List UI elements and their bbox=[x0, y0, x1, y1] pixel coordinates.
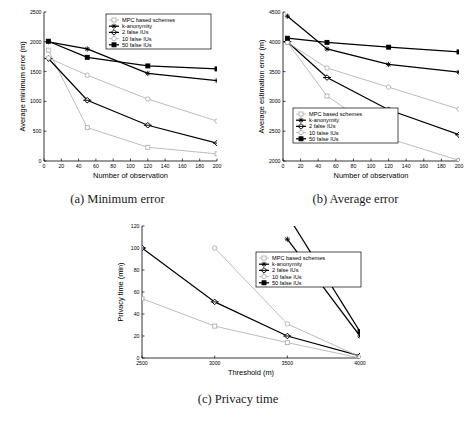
data-point-marker bbox=[85, 126, 89, 130]
series-line bbox=[285, 14, 462, 75]
y-tick-label: 0 bbox=[137, 355, 140, 361]
legend-label: k-anonymity bbox=[309, 117, 339, 123]
y-tick-label: 120 bbox=[131, 223, 140, 229]
legend-label: MPC based schemes bbox=[272, 255, 325, 261]
x-tick-label: 3500 bbox=[282, 360, 294, 366]
data-point-marker bbox=[299, 137, 303, 141]
y-tick-label: 500 bbox=[33, 128, 42, 134]
data-point-marker bbox=[457, 158, 461, 162]
y-tick-label: 40 bbox=[134, 311, 140, 317]
data-point-marker bbox=[325, 40, 329, 44]
legend-label: 2 false IUs bbox=[272, 267, 299, 273]
x-tick-label: 40 bbox=[315, 163, 321, 169]
plot-area bbox=[138, 218, 364, 360]
data-point-marker bbox=[386, 85, 390, 89]
legend-label: 2 false IUs bbox=[122, 29, 149, 35]
x-tick-label: 120 bbox=[143, 163, 152, 169]
x-axis-label: Threshold (m) bbox=[228, 368, 274, 377]
data-point-marker bbox=[140, 297, 144, 301]
data-point-marker bbox=[262, 274, 266, 278]
data-point-marker bbox=[299, 112, 303, 116]
x-tick-label: 60 bbox=[333, 163, 339, 169]
axes: 2500300035004000020406080100120Threshold… bbox=[116, 223, 366, 377]
y-tick-label: 4500 bbox=[269, 9, 281, 15]
x-tick-label: 200 bbox=[213, 163, 222, 169]
y-axis-label: Privacy time (min) bbox=[116, 262, 125, 321]
data-point-marker bbox=[146, 64, 150, 68]
x-tick-label: 20 bbox=[298, 163, 304, 169]
data-point-marker bbox=[358, 330, 362, 334]
x-tick-label: 40 bbox=[76, 163, 82, 169]
x-tick-label: 100 bbox=[367, 163, 376, 169]
x-tick-label: 0 bbox=[282, 163, 285, 169]
series-line bbox=[44, 56, 221, 146]
data-point-marker bbox=[325, 94, 329, 98]
data-point-marker bbox=[85, 73, 89, 77]
data-point-marker bbox=[215, 152, 219, 156]
chart-legend: MPC based schemesk-anonymity2 false IUs1… bbox=[106, 14, 211, 49]
legend-label: 50 false IUs bbox=[309, 136, 339, 142]
data-point-marker bbox=[46, 39, 50, 43]
data-point-marker bbox=[325, 66, 329, 70]
y-tick-label: 4000 bbox=[269, 39, 281, 45]
legend-label: k-anonymity bbox=[272, 261, 302, 267]
series-line bbox=[46, 56, 219, 124]
y-tick-label: 2000 bbox=[30, 39, 42, 45]
legend-label: 10 false IUs bbox=[272, 274, 302, 280]
x-tick-label: 120 bbox=[384, 163, 393, 169]
chart-svg: 2500300035004000020406080100120Threshold… bbox=[108, 218, 370, 388]
x-tick-label: 80 bbox=[351, 163, 357, 169]
x-tick-label: 160 bbox=[178, 163, 187, 169]
y-tick-label: 2000 bbox=[269, 158, 281, 164]
data-point-marker bbox=[146, 145, 150, 149]
y-axis-label: Average minimum error (m) bbox=[18, 41, 27, 131]
y-tick-label: 20 bbox=[134, 333, 140, 339]
y-tick-label: 2500 bbox=[30, 9, 42, 15]
y-tick-label: 3000 bbox=[269, 98, 281, 104]
x-tick-label: 180 bbox=[437, 163, 446, 169]
data-point-marker bbox=[112, 18, 116, 22]
x-tick-label: 180 bbox=[195, 163, 204, 169]
x-tick-label: 60 bbox=[93, 163, 99, 169]
legend-label: 50 false IUs bbox=[272, 280, 302, 286]
x-tick-label: 4000 bbox=[354, 360, 366, 366]
data-point-marker bbox=[285, 322, 289, 326]
caption-panel-b: (b) Average error bbox=[235, 192, 476, 207]
data-point-marker bbox=[285, 40, 289, 44]
y-tick-label: 0 bbox=[39, 158, 42, 164]
x-tick-label: 80 bbox=[110, 163, 116, 169]
x-tick-label: 20 bbox=[58, 163, 64, 169]
caption-panel-c: (c) Privacy time bbox=[0, 392, 476, 407]
x-axis-label: Number of observation bbox=[334, 171, 409, 180]
data-point-marker bbox=[285, 341, 289, 345]
legend-label: MPC based schemes bbox=[122, 17, 175, 23]
chart-legend: MPC based schemesk-anonymity2 false IUs1… bbox=[256, 252, 361, 287]
data-point-marker bbox=[299, 130, 303, 134]
y-axis-label: Average estimation error (m) bbox=[257, 40, 266, 134]
legend-label: 10 false IUs bbox=[122, 36, 152, 42]
x-tick-label: 0 bbox=[43, 163, 46, 169]
x-tick-label: 160 bbox=[419, 163, 428, 169]
data-point-marker bbox=[46, 48, 50, 52]
legend-label: k-anonymity bbox=[122, 23, 152, 29]
series-line bbox=[285, 36, 461, 54]
data-point-marker bbox=[215, 67, 219, 71]
chart-privacy-time: 2500300035004000020406080100120Threshold… bbox=[108, 218, 370, 388]
legend-label: 2 false IUs bbox=[309, 123, 336, 129]
x-tick-label: 100 bbox=[126, 163, 135, 169]
legend-label: 50 false IUs bbox=[122, 42, 152, 48]
data-point-marker bbox=[112, 36, 116, 40]
x-tick-label: 140 bbox=[402, 163, 411, 169]
chart-legend: MPC based schemesk-anonymity2 false IUs1… bbox=[293, 108, 398, 143]
x-tick-label: 200 bbox=[455, 163, 464, 169]
y-tick-label: 2500 bbox=[269, 128, 281, 134]
data-point-marker bbox=[215, 119, 219, 123]
chart-average-error: 0204060801001201401601802002000250030003… bbox=[245, 4, 467, 189]
chart-minimum-error: 0204060801001201401601802000500100015002… bbox=[10, 4, 225, 189]
y-tick-label: 3500 bbox=[269, 69, 281, 75]
y-tick-label: 1500 bbox=[30, 69, 42, 75]
legend-label: 10 false IUs bbox=[309, 130, 339, 136]
caption-panel-a: (a) Minimum error bbox=[0, 192, 235, 207]
data-point-marker bbox=[146, 97, 150, 101]
data-point-marker bbox=[285, 36, 289, 40]
